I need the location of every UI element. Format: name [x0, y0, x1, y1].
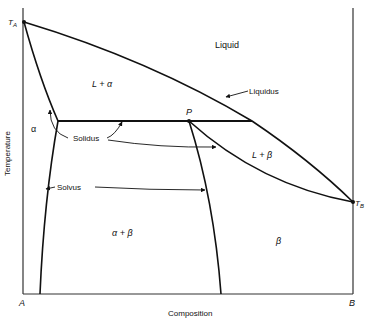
ta-label: TA	[8, 18, 17, 28]
point-p	[187, 119, 191, 123]
region-alpha-label: α	[31, 124, 36, 134]
solidus-leader-isotherm	[107, 122, 122, 138]
p-label: P	[186, 107, 192, 117]
region-beta-label: β	[275, 236, 281, 246]
solvus-leader-beta	[95, 187, 205, 190]
x-axis-title: Composition	[168, 309, 212, 318]
liquidus-leader	[226, 91, 248, 97]
phase-diagram: Liquid L + α α L + β α + β β Liquidus So…	[0, 0, 367, 321]
solvus-leader-alpha	[46, 187, 55, 189]
x-left-label: A	[18, 298, 25, 308]
point-ta	[22, 20, 26, 24]
solvus-alpha-curve	[40, 121, 58, 294]
solidus-label: Solidus	[73, 134, 99, 143]
solvus-label: Solvus	[57, 183, 81, 192]
liquidus-label: Liquidus	[249, 87, 279, 96]
solidus-leader-beta	[108, 140, 216, 147]
region-liquid-label: Liquid	[215, 40, 239, 50]
region-l-alpha-label: L + α	[92, 79, 113, 89]
y-axis-title: Temperature	[3, 131, 12, 176]
x-right-label: B	[349, 298, 355, 308]
region-alpha-beta-label: α + β	[112, 228, 133, 238]
region-l-beta-label: L + β	[252, 150, 272, 160]
solidus-leader-alpha	[50, 110, 68, 138]
solidus-alpha-curve	[24, 22, 58, 121]
solidus-beta-curve	[189, 121, 353, 202]
tb-label: TB	[355, 199, 364, 209]
